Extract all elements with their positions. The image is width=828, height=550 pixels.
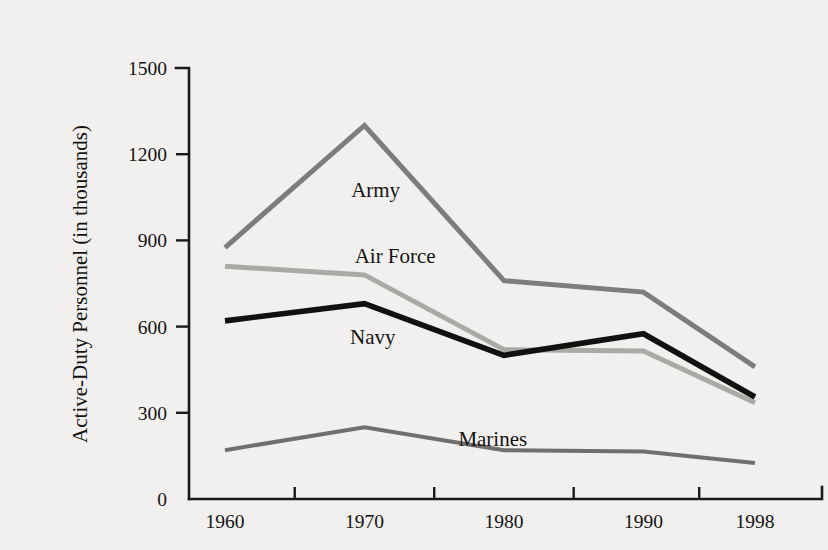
- y-tick-label: 300: [138, 403, 167, 424]
- x-tick-label: 1960: [206, 511, 245, 532]
- x-axis-ticks: [295, 487, 699, 499]
- x-tick-label: 1998: [736, 511, 775, 532]
- series-label-air-force: Air Force: [355, 244, 436, 268]
- y-tick-label: 1200: [128, 144, 167, 165]
- series-label-army: Army: [351, 178, 400, 202]
- x-tick-label: 1970: [345, 511, 384, 532]
- y-axis-tick-labels: 030060090012001500: [128, 58, 167, 510]
- x-axis-tick-labels: 19601970198019901998: [206, 511, 775, 532]
- y-tick-label: 0: [157, 489, 167, 510]
- series-line-navy: [225, 304, 755, 397]
- y-tick-label: 1500: [128, 58, 167, 79]
- x-axis-line: [189, 487, 822, 499]
- series-label-marines: Marines: [458, 427, 527, 451]
- series-line-air-force: [225, 266, 755, 402]
- y-tick-label: 600: [138, 317, 167, 338]
- chart-canvas: Active-Duty Personnel (in thousands) 030…: [40, 16, 828, 550]
- y-axis-line: [176, 68, 189, 499]
- y-axis-title: Active-Duty Personnel (in thousands): [68, 125, 92, 443]
- series-lines-group: [225, 125, 755, 463]
- line-chart-figure: Active-Duty Personnel (in thousands) 030…: [40, 16, 769, 534]
- x-tick-label: 1990: [624, 511, 663, 532]
- series-label-navy: Navy: [350, 325, 396, 349]
- y-tick-label: 900: [138, 230, 167, 251]
- series-line-army: [225, 125, 755, 366]
- y-axis-ticks: [176, 154, 189, 413]
- x-tick-label: 1980: [484, 511, 523, 532]
